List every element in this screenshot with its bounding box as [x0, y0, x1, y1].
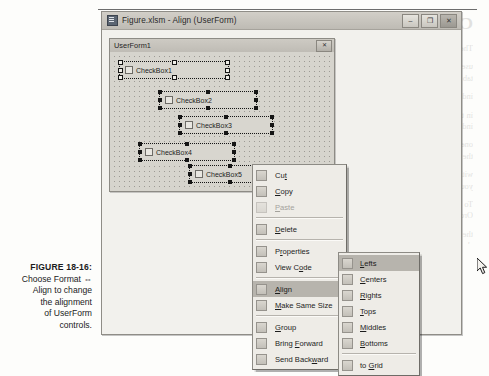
selection-handle[interactable] — [188, 164, 192, 168]
selection-handle[interactable] — [225, 75, 230, 80]
selection-handle[interactable] — [158, 98, 162, 102]
align-submenu-item-label: Centers — [360, 275, 387, 284]
checkbox-caption: CheckBox5 — [206, 171, 242, 178]
context-menu-item-label: Paste — [275, 203, 294, 212]
selection-handle[interactable] — [206, 90, 210, 94]
selection-handle[interactable] — [178, 131, 182, 135]
selection-handle[interactable] — [232, 142, 236, 146]
align-submenu-item-centers[interactable]: Centers — [339, 271, 419, 287]
align-submenu-item-label: Middles — [360, 323, 386, 332]
selection-handle[interactable] — [172, 75, 177, 80]
checkbox-box-icon — [185, 121, 193, 129]
align-submenu-item-bottoms[interactable]: Bottoms — [339, 335, 419, 351]
window-buttons: – ❐ ✕ — [402, 14, 459, 28]
context-menu-item-cut[interactable]: Cut — [253, 167, 346, 183]
close-button[interactable]: ✕ — [440, 14, 457, 28]
selection-handle[interactable] — [138, 158, 142, 162]
selection-handle[interactable] — [270, 131, 274, 135]
align-submenu-item-label: to Grid — [360, 361, 383, 370]
selection-handle[interactable] — [185, 142, 189, 146]
context-menu-separator — [256, 315, 343, 317]
selection-handle[interactable] — [254, 90, 258, 94]
selection-handle[interactable] — [188, 180, 192, 184]
selection-handle[interactable] — [118, 60, 123, 65]
align-submenu-item-rights[interactable]: Rights — [339, 287, 419, 303]
cut-icon — [256, 170, 267, 181]
context-menu-item-copy[interactable]: Copy — [253, 183, 346, 199]
context-menu-item-label: Properties — [275, 247, 310, 256]
context-menu-item-view-code[interactable]: View Code — [253, 259, 346, 275]
paste-icon — [256, 202, 267, 213]
context-menu-item-label: Bring Forward — [275, 339, 323, 348]
align-submenu-item-to-grid[interactable]: to Grid — [339, 357, 419, 373]
selection-handle[interactable] — [138, 150, 142, 154]
caption-line: of UserForm — [0, 308, 92, 320]
selection-handle[interactable] — [225, 60, 230, 65]
mouse-cursor — [477, 258, 489, 275]
align-submenu-item-middles[interactable]: Middles — [339, 319, 419, 335]
caption-line: controls. — [0, 320, 92, 332]
selection-handle[interactable] — [270, 115, 274, 119]
align-submenu-item-lefts[interactable]: Lefts — [339, 255, 419, 271]
selection-handle[interactable] — [254, 106, 258, 110]
selection-handle[interactable] — [138, 142, 142, 146]
context-menu[interactable]: CutCopyPasteDeletePropertiesView CodeAli… — [252, 164, 347, 370]
selection-handle[interactable] — [228, 164, 232, 168]
selection-handle[interactable] — [232, 158, 236, 162]
maximize-button[interactable]: ❐ — [421, 14, 438, 28]
context-menu-item-group[interactable]: Group — [253, 319, 346, 335]
checkbox-control-body: CheckBox3 — [181, 118, 271, 132]
selection-handle[interactable] — [228, 180, 232, 184]
userform-close-button[interactable]: ✕ — [316, 40, 332, 52]
context-menu-item-label: Delete — [275, 225, 297, 234]
minimize-button[interactable]: – — [402, 14, 419, 28]
context-menu-item-send-backward[interactable]: Send Backward — [253, 351, 346, 367]
checkbox-box-icon — [165, 96, 173, 104]
align-middles-icon — [342, 322, 353, 333]
selection-handle[interactable] — [225, 68, 230, 73]
userform-control-checkbox2[interactable]: CheckBox2 — [158, 90, 258, 110]
userform-control-checkbox3[interactable]: CheckBox3 — [178, 115, 274, 135]
checkbox-caption: CheckBox4 — [156, 149, 192, 156]
align-tops-icon — [342, 306, 353, 317]
checkbox-box-icon — [125, 66, 133, 74]
vbe-window-title: Figure.xlsm - Align (UserForm) — [122, 16, 402, 25]
selection-handle[interactable] — [118, 75, 123, 80]
selection-handle[interactable] — [270, 123, 274, 127]
minimize-glyph: – — [403, 15, 418, 27]
userform-control-checkbox4[interactable]: CheckBox4 — [138, 142, 236, 162]
selection-handle[interactable] — [158, 106, 162, 110]
vb-project-icon — [107, 15, 118, 26]
align-lefts-icon — [342, 258, 353, 269]
selection-handle[interactable] — [118, 68, 123, 73]
selection-handle[interactable] — [178, 115, 182, 119]
context-menu-item-align[interactable]: Align — [253, 281, 346, 297]
context-menu-item-label: Send Backward — [275, 355, 328, 364]
selection-handle[interactable] — [224, 115, 228, 119]
selection-handle[interactable] — [206, 106, 210, 110]
context-menu-item-properties[interactable]: Properties — [253, 243, 346, 259]
vbe-window: Figure.xlsm - Align (UserForm) – ❐ ✕ Use… — [101, 11, 462, 335]
selection-handle[interactable] — [158, 90, 162, 94]
selection-handle[interactable] — [178, 123, 182, 127]
selection-handle[interactable] — [254, 98, 258, 102]
align-submenu-item-tops[interactable]: Tops — [339, 303, 419, 319]
align-submenu[interactable]: LeftsCentersRightsTopsMiddlesBottomsto G… — [338, 252, 420, 376]
delete-icon — [256, 224, 267, 235]
context-menu-item-delete[interactable]: Delete — [253, 221, 346, 237]
checkbox-caption: CheckBox2 — [176, 97, 212, 104]
selection-handle[interactable] — [232, 150, 236, 154]
align-centers-icon — [342, 274, 353, 285]
context-menu-item-bring-forward[interactable]: Bring Forward — [253, 335, 346, 351]
properties-icon — [256, 246, 267, 257]
selection-handle[interactable] — [185, 158, 189, 162]
selection-handle[interactable] — [224, 131, 228, 135]
checkbox-control-body: CheckBox2 — [161, 93, 255, 107]
selection-handle[interactable] — [188, 172, 192, 176]
selection-handle[interactable] — [172, 60, 177, 65]
context-menu-item-make-same-size[interactable]: Make Same Size — [253, 297, 346, 313]
userform-control-checkbox1[interactable]: CheckBox1 — [118, 60, 230, 80]
vbe-title-bar[interactable]: Figure.xlsm - Align (UserForm) – ❐ ✕ — [102, 12, 461, 30]
checkbox-control-body: CheckBox4 — [141, 145, 233, 159]
userform-title-bar[interactable]: UserForm1 ✕ — [110, 39, 334, 53]
